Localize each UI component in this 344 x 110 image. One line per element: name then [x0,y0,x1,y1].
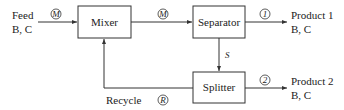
product2-components: B, C [291,89,311,101]
splitter-label: Splitter [203,81,236,93]
process-flow-diagram: Feed B, C M Mixer M Separator 1 Product … [0,0,344,110]
separator-label: Separator [198,16,240,28]
feed-components: B, C [12,23,32,35]
stream-s-label: S [225,50,230,60]
feed-label: Feed [12,9,34,21]
stream-f-label: M [51,9,60,19]
recycle-line [104,39,193,88]
stream-r-label: R [159,95,166,105]
stream-2-label: 2 [263,75,268,85]
product1-label: Product 1 [291,9,333,21]
recycle-label: Recycle [106,94,142,106]
stream-m-label: M [158,9,167,19]
mixer-label: Mixer [91,16,118,28]
stream-1-label: 1 [263,9,268,19]
product1-components: B, C [291,23,311,35]
product2-label: Product 2 [291,75,333,87]
